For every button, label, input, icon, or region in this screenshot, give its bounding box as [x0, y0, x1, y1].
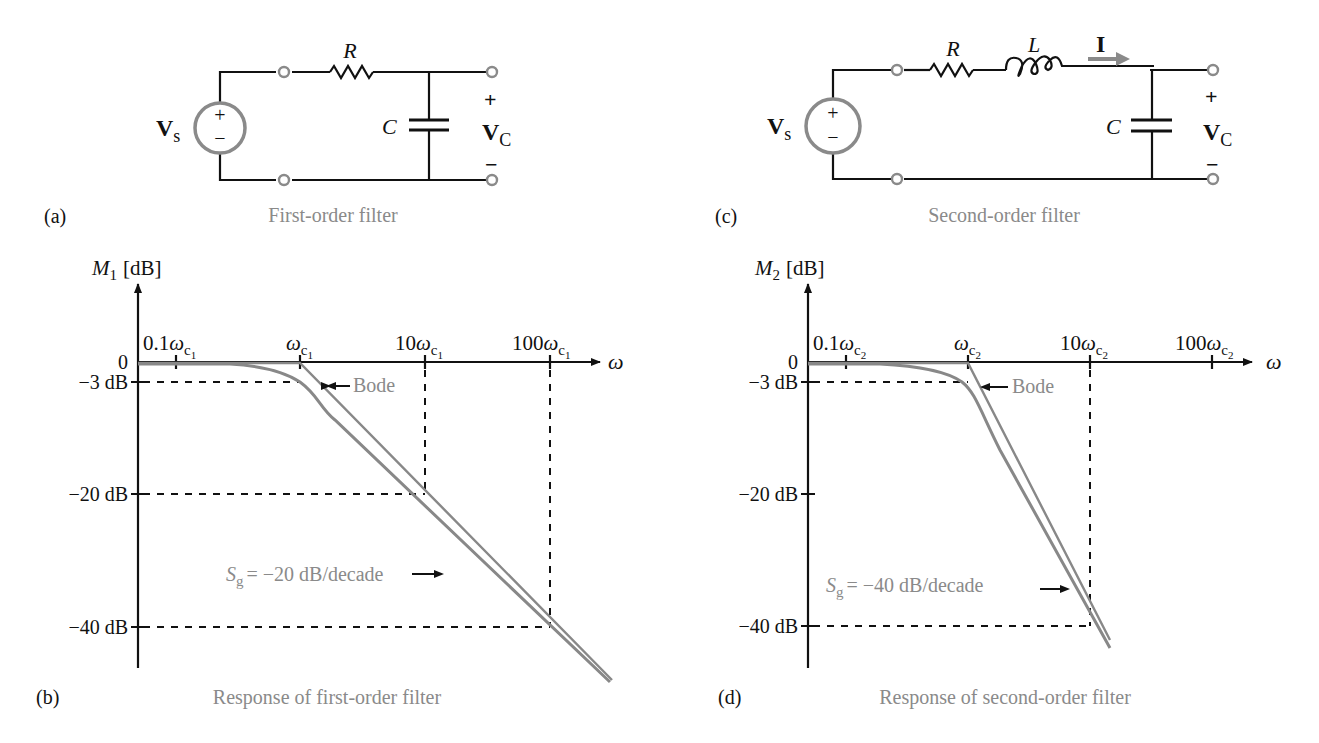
resistor-icon [930, 64, 973, 76]
caption-c: Second-order filter [928, 204, 1080, 226]
caption-d: Response of second-order filter [879, 686, 1131, 709]
bode-asymptote [138, 363, 612, 680]
y-tick-minus3: −3 dB [78, 371, 128, 393]
y-tick-minus20: −20 dB [68, 483, 128, 505]
output-voltage-label: VC [1203, 119, 1232, 150]
y-tick-minus3: −3 dB [748, 371, 798, 393]
output-minus: − [485, 152, 498, 177]
x-tick-10wc: 10ωc2 [1060, 331, 1108, 361]
panel-label-a: (a) [44, 205, 66, 228]
slope-label: Sg= −20 dB/decade [226, 563, 384, 589]
capacitor-icon [409, 120, 449, 130]
circuit-second-order: I + − Vs R L C + VC − (c) Second-order f… [715, 31, 1232, 228]
current-label: I [1096, 31, 1105, 57]
y-tick-minus40: −40 dB [738, 615, 798, 637]
y-axis-label: M1[dB] [91, 256, 162, 283]
output-voltage-label: VC [482, 119, 511, 150]
output-plus: + [484, 87, 497, 112]
output-terminal-plus [1208, 65, 1218, 75]
output-minus: − [1206, 152, 1219, 177]
x-tick-0p1wc: 0.1ωc2 [813, 331, 866, 361]
capacitor-icon [1131, 120, 1172, 131]
source-label: Vs [767, 113, 791, 144]
y-tick-minus40: −40 dB [68, 616, 128, 638]
bode-label: Bode [1012, 375, 1054, 397]
x-tick-10wc: 10ωc1 [395, 331, 443, 361]
chart-second-order-response: 0 −3 dB −20 dB −40 dB 0.1ωc2 ωc2 10ωc2 1… [718, 256, 1282, 709]
x-axis-label: ω [1266, 349, 1282, 374]
arrow-right-icon [1060, 585, 1070, 593]
arrow-left-icon [326, 382, 336, 390]
x-tick-0p1wc: 0.1ωc1 [143, 331, 196, 361]
source-label: Vs [156, 115, 180, 146]
panel-label-b: (b) [36, 686, 59, 709]
y-tick-0: 0 [788, 351, 798, 373]
y-tick-0: 0 [118, 351, 128, 373]
bode-label: Bode [353, 374, 395, 396]
resistor-label: R [342, 38, 357, 63]
source-plus: + [827, 102, 838, 124]
exact-response-curve [138, 364, 610, 682]
inductor-label: L [1027, 32, 1040, 57]
resistor-label: R [945, 36, 960, 61]
panel-label-c: (c) [715, 205, 737, 228]
chart-first-order-response: 0 −3 dB −20 dB −40 dB 0.1ωc1 ωc1 10ωc1 1… [36, 256, 624, 709]
figure-canvas: + − Vs R C + VC − (a) First-order filter… [0, 0, 1319, 743]
source-minus: − [827, 126, 838, 148]
caption-a: First-order filter [268, 204, 398, 226]
x-tick-100wc: 100ωc2 [1175, 331, 1234, 361]
inductor-icon [1006, 56, 1154, 75]
capacitor-label: C [1106, 114, 1121, 139]
y-axis-label: M2[dB] [754, 256, 825, 283]
terminal-node [279, 67, 289, 77]
panel-label-d: (d) [718, 686, 741, 709]
terminal-node [892, 174, 902, 184]
terminal-node [279, 175, 289, 185]
slope-label: Sg= −40 dB/decade [826, 574, 984, 600]
terminal-node [892, 65, 902, 75]
source-minus: − [214, 127, 225, 149]
x-axis-label: ω [608, 349, 624, 374]
x-tick-100wc: 100ωc1 [512, 331, 571, 361]
output-plus: + [1205, 84, 1218, 109]
bode-asymptote [808, 363, 1110, 640]
arrow-right-icon [434, 570, 444, 578]
resistor-icon [330, 66, 373, 78]
output-terminal-plus [487, 67, 497, 77]
circuit-first-order: + − Vs R C + VC − (a) First-order filter [44, 38, 511, 228]
exact-response-curve [808, 364, 1110, 648]
capacitor-label: C [382, 114, 397, 139]
caption-b: Response of first-order filter [213, 686, 442, 709]
y-tick-minus20: −20 dB [738, 483, 798, 505]
source-plus: + [214, 104, 225, 126]
